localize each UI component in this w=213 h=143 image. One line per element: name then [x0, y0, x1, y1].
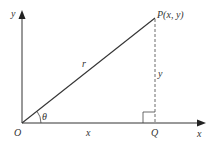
origin-label: O: [14, 127, 21, 138]
y-axis-label: y: [10, 8, 16, 19]
point-p-letter: P: [156, 9, 163, 20]
theta-label: θ: [42, 111, 47, 122]
angle-arc: [37, 111, 41, 123]
x-axis-arrow-icon: [197, 120, 206, 127]
foot-q-label: Q: [151, 127, 159, 138]
horizontal-x-label: x: [85, 127, 91, 138]
y-axis-arrow-icon: [19, 10, 26, 19]
radius-line-op: [22, 18, 155, 123]
vertical-y-label: y: [157, 68, 163, 79]
point-p-coords: (x, y): [163, 9, 184, 21]
point-p-label: P(x, y): [156, 9, 184, 21]
radius-label: r: [82, 58, 86, 69]
polar-coordinate-diagram: y x O P(x, y) Q r y x θ: [0, 0, 213, 143]
right-angle-marker: [143, 112, 155, 123]
x-axis-label: x: [196, 128, 202, 139]
